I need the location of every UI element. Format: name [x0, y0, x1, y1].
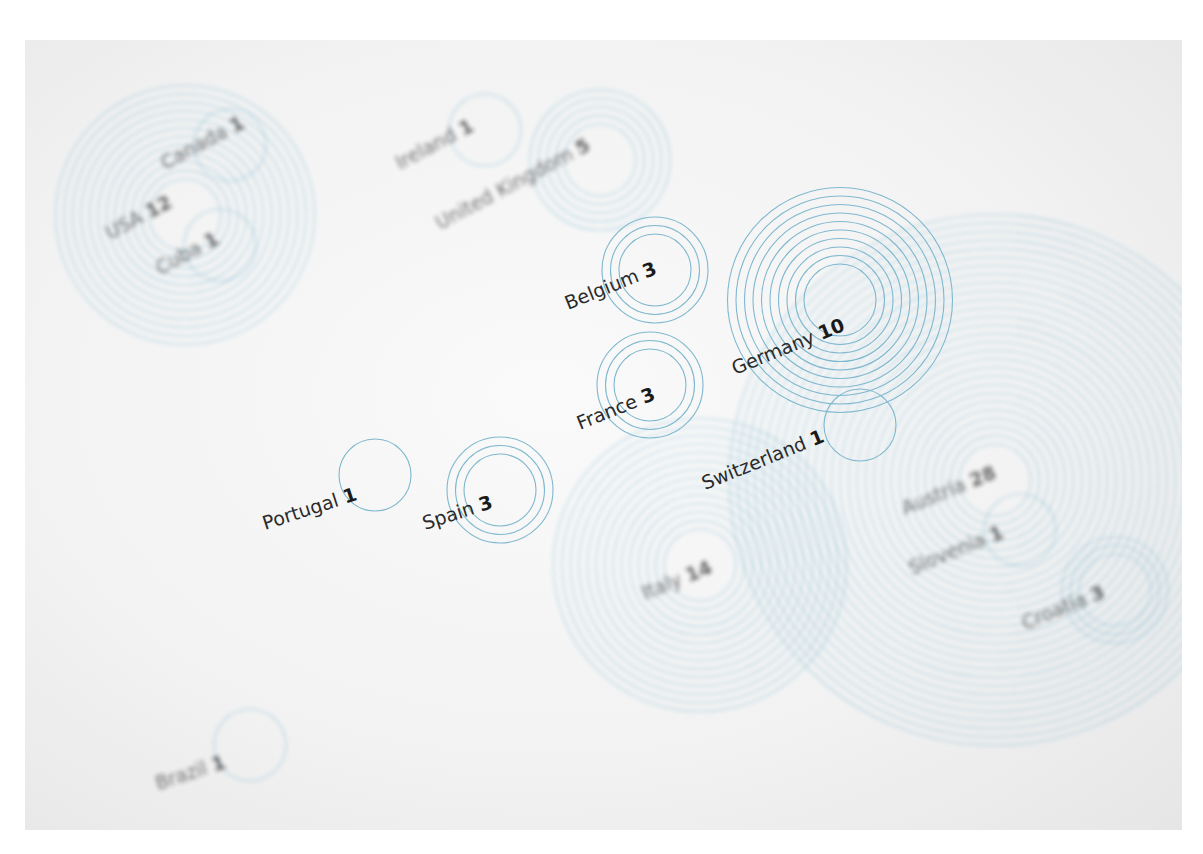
country-name: Croatia [1018, 585, 1095, 633]
ring-layer [56, 86, 1183, 782]
country-name: Spain [419, 495, 482, 534]
country-name: Ireland [392, 120, 466, 173]
country-name: Canada [157, 117, 237, 173]
country-name: Brazil [152, 755, 215, 794]
ring [64, 94, 306, 336]
country-name: Portugal [259, 487, 346, 534]
country-name: Belgium [561, 262, 647, 314]
chart-photo: Canada 1USA 12Cuba 1Ireland 1United King… [25, 40, 1182, 830]
country-label: USA 12 [102, 190, 176, 243]
country-name: United Kingdom [432, 140, 582, 234]
country-label: Italy 14 [638, 556, 715, 604]
country-bubble-germany [728, 188, 953, 413]
country-label: Switzerland 1 [698, 425, 827, 494]
country-bubble-usa [56, 86, 315, 345]
country-label: Brazil 1 [152, 751, 228, 794]
country-bubble-spain [447, 437, 553, 543]
country-label: Spain 3 [419, 491, 495, 534]
ring [447, 437, 553, 543]
country-label: Austria 28 [898, 461, 999, 519]
country-label: United Kingdom 5 [432, 133, 594, 233]
concentric-circle-chart: Canada 1USA 12Cuba 1Ireland 1United King… [25, 40, 1182, 830]
ring [56, 86, 315, 345]
country-label: Portugal 1 [259, 483, 359, 534]
country-label: Croatia 3 [1018, 581, 1107, 634]
country-label: Ireland 1 [392, 114, 477, 173]
country-name: Cuba [152, 233, 211, 278]
ring [456, 446, 545, 535]
